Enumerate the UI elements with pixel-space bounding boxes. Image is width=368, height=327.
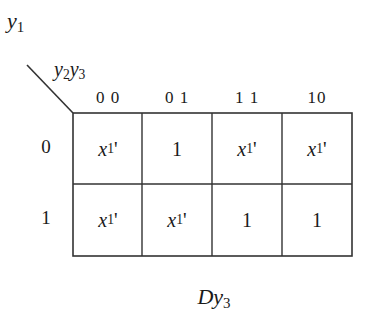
column-header-10: 10 [282,88,352,108]
cell-r1-c3: 1 [282,184,352,256]
cell-r1-c0: x1' [73,184,143,256]
cell-r0-c0: x1' [73,113,143,185]
cell-r0-c3: x1' [282,113,352,185]
corner-diagonal-line [27,65,73,113]
column-header-01: 0 1 [142,88,212,108]
map-caption: Dy3 [0,284,368,312]
cell-r0-c2: x1' [212,113,282,185]
column-header-00: 0 0 [73,88,143,108]
cell-r0-c1: 1 [142,113,212,185]
cell-r1-c1: x1' [142,184,212,256]
row-header-1: 1 [36,207,56,229]
cell-r1-c2: 1 [212,184,282,256]
column-header-11: 1 1 [212,88,282,108]
row-header-0: 0 [36,136,56,158]
